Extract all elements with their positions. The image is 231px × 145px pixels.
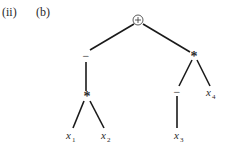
edge-mul-x1 — [73, 101, 84, 128]
svg-text:4: 4 — [212, 93, 216, 101]
svg-text:x: x — [100, 129, 106, 141]
svg-text:x: x — [205, 86, 211, 98]
edge-root-left — [90, 24, 134, 50]
svg-text:x: x — [173, 129, 179, 141]
leaf-x4: x 4 — [205, 86, 216, 101]
svg-text:2: 2 — [107, 136, 111, 144]
leaf-x2: x 2 — [100, 129, 111, 144]
edge-mul-x2 — [90, 101, 104, 128]
svg-text:x: x — [65, 129, 71, 141]
left-mul-node: * — [84, 89, 91, 104]
tree-edges — [73, 24, 210, 128]
right-neg-node: − — [174, 85, 181, 99]
edge-root-right — [143, 24, 190, 52]
right-mul-node: * — [191, 49, 198, 64]
edge-rmul-x4 — [197, 60, 210, 86]
leaf-x3: x 3 — [173, 129, 184, 144]
expression-tree: − * * − x 1 x 2 x 3 x 4 — [0, 0, 231, 145]
svg-text:1: 1 — [72, 136, 76, 144]
leaf-x1: x 1 — [65, 129, 76, 144]
root-node — [133, 15, 143, 25]
svg-text:3: 3 — [180, 136, 184, 144]
left-neg-node: − — [83, 49, 90, 63]
